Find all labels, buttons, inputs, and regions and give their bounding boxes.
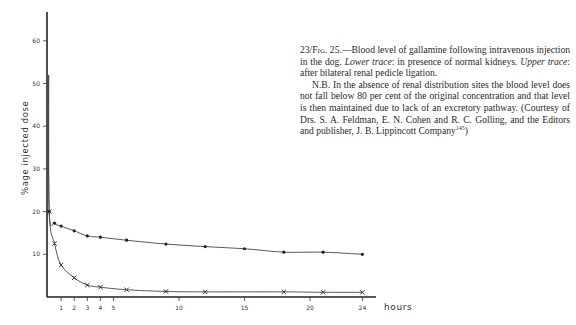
x-tick-label: 15 [241, 304, 249, 311]
y-tick-label: 40 [32, 122, 40, 129]
data-point-dot [282, 251, 285, 254]
data-point-x [72, 276, 76, 280]
x-axis-title: hours [384, 302, 412, 312]
data-point-dot [73, 229, 76, 232]
caption-paragraph: 23/Fig. 25.—Blood level of gallamine fol… [300, 44, 570, 79]
lower-trace-label: Lower trace [345, 56, 392, 67]
x-tick-label: 1 [59, 304, 63, 311]
x-ticks: 1234510152024 [59, 297, 366, 311]
data-point-dot [86, 234, 89, 237]
x-tick-label: 20 [306, 304, 314, 311]
nb-text: N.B. In the absence of renal distributio… [300, 79, 570, 136]
data-point-dot [243, 247, 246, 250]
x-tick-label: 2 [72, 304, 76, 311]
data-point-dot [164, 242, 167, 245]
data-point-x [59, 263, 63, 267]
figure-ref: 23/Fig. 25. [300, 44, 342, 55]
data-point-dot [361, 253, 364, 256]
y-ticks: 102030405060 [32, 37, 47, 257]
reference-number: 145 [456, 125, 465, 131]
upper-trace-label: Upper trace [520, 56, 567, 67]
data-point-x [85, 283, 89, 287]
y-tick-label: 10 [32, 250, 40, 257]
y-axis-title: %age injected dose [20, 101, 30, 195]
nb-end: ) [465, 125, 468, 136]
nb-paragraph: N.B. In the absence of renal distributio… [300, 79, 570, 137]
x-tick-label: 24 [359, 304, 367, 311]
x-tick-label: 10 [175, 304, 183, 311]
lower-trace-text: : in presence of normal kidneys. [392, 56, 520, 67]
data-point-dot [99, 236, 102, 239]
y-tick-label: 50 [32, 80, 40, 87]
x-tick-label: 5 [112, 304, 116, 311]
data-point-dot [125, 239, 128, 242]
x-tick-label: 3 [85, 304, 89, 311]
x-tick-label: 4 [98, 304, 102, 311]
y-tick-label: 20 [32, 208, 40, 215]
data-point-dot [53, 222, 56, 225]
data-point-dot [204, 245, 207, 248]
data-point-dot [322, 251, 325, 254]
y-tick-label: 60 [32, 37, 40, 44]
data-point-dot [60, 225, 63, 228]
y-tick-label: 30 [32, 165, 40, 172]
figure-caption: 23/Fig. 25.—Blood level of gallamine fol… [300, 44, 570, 137]
